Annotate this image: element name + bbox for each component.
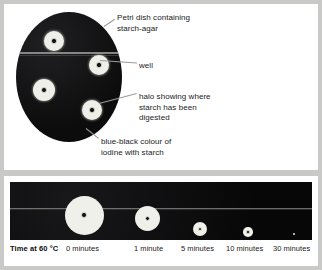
callout-iodine: blue-black colour of iodine with starch [101,137,221,158]
tick-label-1min: 1 minute [134,244,163,253]
sample-spot-5min [193,222,207,236]
sample-spot-30min [293,233,295,235]
top-panel: Petri dish containing starch-agar well h… [4,4,318,170]
scan-streak-dark-icon [16,55,122,56]
well-1 [51,38,56,43]
tick-label-0min: 0 minutes [66,244,99,253]
time-series-strip [10,182,312,240]
sample-well-5min [198,227,202,231]
petri-dish-photograph [16,9,124,144]
bottom-panel: Time at 60 °C 0 minutes 1 minute 5 minut… [4,176,318,266]
scan-streak-light-icon [16,52,122,54]
tick-label-10min: 10 minutes [226,244,263,253]
sample-spot-0min [65,196,104,235]
petri-dish [16,12,122,142]
sample-spot-1min [135,206,160,231]
well-3 [41,87,47,93]
axis-title-time: Time at 60 °C [10,244,58,253]
tick-label-30min: 30 minutes [273,244,310,253]
halo-well-3 [33,79,55,101]
axis-label-row: Time at 60 °C 0 minutes 1 minute 5 minut… [4,242,318,258]
well-2 [96,62,101,67]
halo-well-2 [89,55,109,75]
sample-well-0min [81,212,87,218]
sample-well-10min [246,230,250,234]
callout-petri-dish: Petri dish containing starch-agar [117,13,247,34]
callout-well: well [139,61,219,72]
tick-label-5min: 5 minutes [181,244,214,253]
sample-well-1min [145,216,150,221]
well-4 [89,107,94,112]
sample-spot-10min [243,227,253,237]
figure-root: Petri dish containing starch-agar well h… [0,0,322,270]
strip-streak-dark-icon [10,209,312,210]
halo-well-1 [44,31,64,51]
callout-halo: halo showing where starch has been diges… [139,92,259,124]
